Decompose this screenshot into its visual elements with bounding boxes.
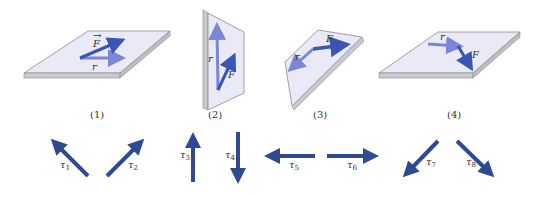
torque-3-label: τ3 bbox=[180, 149, 190, 162]
f-label: F bbox=[325, 33, 334, 44]
caption-2: (2) bbox=[208, 109, 222, 120]
panel-3: r F (3) bbox=[285, 30, 364, 120]
caption-1: (1) bbox=[90, 109, 104, 120]
torque-6-label: τ6 bbox=[347, 159, 358, 172]
caption-4: (4) bbox=[447, 109, 461, 120]
plate bbox=[285, 30, 362, 106]
panel-2: r F (2) bbox=[203, 10, 244, 120]
torque-1-label: τ1 bbox=[60, 159, 70, 172]
f-label: F bbox=[471, 49, 480, 60]
f-label: F bbox=[227, 69, 236, 80]
torque-2-label: τ2 bbox=[128, 159, 138, 172]
panel-1: F → r (1) bbox=[24, 30, 170, 120]
torque-arrows bbox=[55, 132, 490, 182]
f-arrow-accent: → bbox=[93, 30, 102, 41]
plate bbox=[208, 13, 244, 110]
panel-4: r F (4) bbox=[379, 31, 520, 120]
position-vector-r bbox=[428, 44, 458, 46]
plate-edge bbox=[24, 73, 120, 78]
plate-edge bbox=[379, 73, 473, 78]
torque-7-label: τ7 bbox=[426, 156, 436, 169]
position-vector-r bbox=[217, 28, 218, 90]
torque-4-label: τ4 bbox=[225, 149, 236, 162]
torque-diagram: F → r (1) r F (2) r F (3) r F (4) bbox=[0, 0, 538, 197]
torque-5-label: τ5 bbox=[289, 159, 299, 172]
caption-3: (3) bbox=[313, 109, 327, 120]
